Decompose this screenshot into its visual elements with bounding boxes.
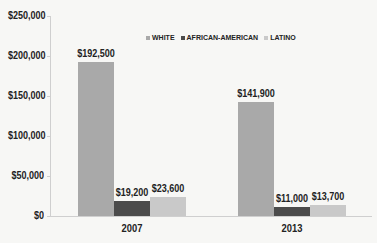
- legend-item-white: WHITE: [146, 34, 175, 41]
- value-label: $192,500: [71, 47, 120, 59]
- y-tick-label: $50,000: [8, 169, 44, 181]
- y-tick-label: $150,000: [8, 89, 44, 101]
- legend: WHITE AFRICAN-AMERICAN LATINO: [146, 34, 296, 41]
- bar-2013-latino: [310, 205, 346, 216]
- y-tick-label: $100,000: [8, 129, 44, 141]
- x-tick-label: 2013: [267, 222, 318, 234]
- y-tick-label: $200,000: [8, 49, 44, 61]
- latino-swatch-icon: [264, 36, 268, 40]
- bar-chart: $250,000 $200,000 $150,000 $100,000 $50,…: [0, 0, 377, 243]
- bar-2007-african-american: [114, 201, 150, 216]
- y-axis: [50, 16, 51, 216]
- y-tick-label: $0: [8, 209, 44, 221]
- value-label: $13,700: [303, 190, 352, 202]
- y-tick-label: $250,000: [8, 9, 44, 21]
- legend-item-latino: LATINO: [264, 34, 296, 41]
- x-axis: [50, 216, 372, 217]
- white-swatch-icon: [146, 36, 150, 40]
- x-tick-label: 2007: [107, 222, 158, 234]
- value-label: $23,600: [143, 182, 192, 194]
- bar-2013-african-american: [274, 207, 310, 216]
- african-american-swatch-icon: [181, 36, 185, 40]
- bar-2007-latino: [150, 197, 186, 216]
- legend-item-african-american: AFRICAN-AMERICAN: [181, 34, 259, 41]
- value-label: $141,900: [231, 87, 280, 99]
